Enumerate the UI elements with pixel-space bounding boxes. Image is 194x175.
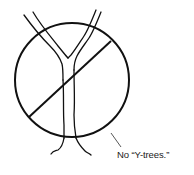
figure-caption: No “Y-trees.” (117, 149, 169, 160)
prohibition-sign-icon (15, 23, 129, 137)
prohibition-slash (29, 41, 111, 117)
caption-leader-line (111, 133, 121, 147)
prohibition-circle (15, 23, 129, 137)
